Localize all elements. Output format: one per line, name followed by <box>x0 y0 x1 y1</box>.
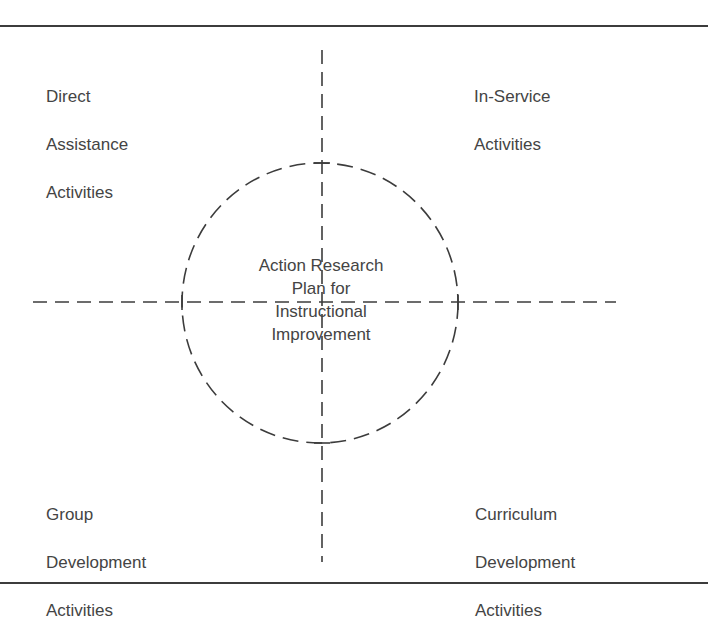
label-line: Activities <box>475 599 575 620</box>
label-line: Direct <box>46 85 128 109</box>
center-label-action-research-plan: Action Research Plan for Instructional I… <box>220 254 422 346</box>
label-line: Development <box>475 551 575 575</box>
label-line: Activities <box>46 599 146 620</box>
quadrant-label-in-service: In-Service Activities <box>474 61 551 181</box>
label-line: Improvement <box>220 323 422 346</box>
label-line: Activities <box>46 181 128 205</box>
label-line: Assistance <box>46 133 128 157</box>
label-line: Activities <box>474 133 551 157</box>
label-line: Plan for <box>220 277 422 300</box>
label-line: Development <box>46 551 146 575</box>
quadrant-label-curriculum-development: Curriculum Development Activities <box>475 479 575 620</box>
label-line: In-Service <box>474 85 551 109</box>
label-line: Action Research <box>220 254 422 277</box>
label-line: Curriculum <box>475 503 575 527</box>
quadrant-label-group-development: Group Development Activities <box>46 479 146 620</box>
label-line: Instructional <box>220 300 422 323</box>
quadrant-label-direct-assistance: Direct Assistance Activities <box>46 61 128 229</box>
label-line: Group <box>46 503 146 527</box>
